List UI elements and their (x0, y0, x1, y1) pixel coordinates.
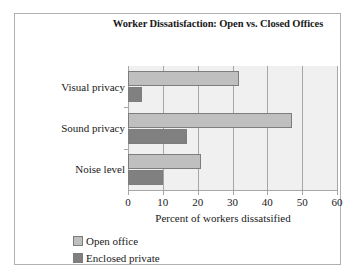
x-axis-tick (128, 191, 129, 195)
gridline (302, 66, 303, 190)
x-axis-tick-label: 50 (287, 196, 317, 208)
x-axis-tick-label: 40 (252, 196, 282, 208)
legend-swatch-enclosed-private (73, 253, 83, 263)
bar (128, 129, 187, 144)
x-axis-tick (163, 191, 164, 195)
category-label: Noise level (19, 163, 125, 175)
bar (128, 71, 239, 86)
chart-legend: Open officeEnclosed private (73, 232, 160, 266)
bar (128, 113, 292, 128)
x-axis-tick-label: 60 (322, 196, 352, 208)
category-labels: Visual privacySound privacyNoise level (15, 66, 125, 190)
bar (128, 170, 163, 185)
bar (128, 87, 142, 102)
x-axis-tick (337, 191, 338, 195)
legend-label: Enclosed private (86, 252, 160, 264)
legend-item: Open office (73, 232, 160, 249)
category-label: Visual privacy (19, 81, 125, 93)
gridline (337, 66, 338, 190)
legend-label: Open office (86, 235, 138, 247)
x-axis-tick-label: 20 (183, 196, 213, 208)
x-axis-tick (267, 191, 268, 195)
x-axis-tick-label: 10 (148, 196, 178, 208)
x-axis-tick-label: 0 (113, 196, 143, 208)
legend-swatch-open-office (73, 236, 83, 246)
x-axis-tick (198, 191, 199, 195)
x-axis-tick-label: 30 (218, 196, 248, 208)
x-axis-title: Percent of workers dissatsified (103, 212, 343, 224)
x-axis-tick (302, 191, 303, 195)
bar (128, 154, 201, 169)
category-label: Sound privacy (19, 122, 125, 134)
chart-title: Worker Dissatisfaction: Open vs. Closed … (103, 17, 333, 30)
gridline (267, 66, 268, 190)
chart-frame: Worker Dissatisfaction: Open vs. Closed … (14, 13, 341, 265)
legend-item: Enclosed private (73, 249, 160, 266)
x-axis-tick (233, 191, 234, 195)
